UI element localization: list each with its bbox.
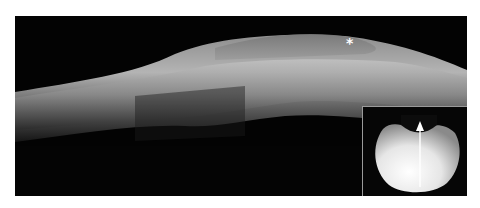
oct-scan-image: * — [15, 16, 467, 196]
ocular-surface — [375, 124, 459, 192]
eye-photo — [363, 107, 467, 196]
slit-lamp-photo-inset — [362, 106, 467, 196]
lesion-asterisk-marker: * — [346, 36, 353, 50]
